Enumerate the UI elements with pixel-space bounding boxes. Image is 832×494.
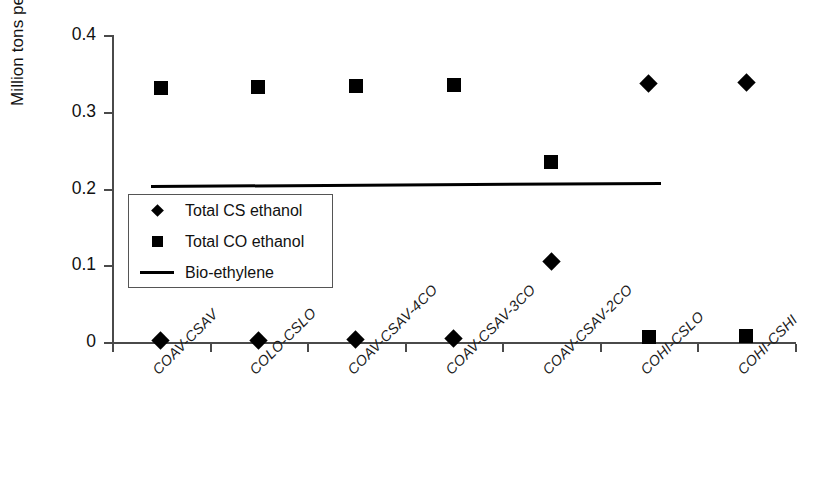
plot-area xyxy=(0,0,832,494)
legend-item-bio-ethylene[interactable]: Bio-ethylene xyxy=(129,257,332,288)
data-point-diamond xyxy=(737,73,755,91)
x-tick-mark xyxy=(600,344,602,352)
x-tick-mark xyxy=(795,344,797,352)
data-point-diamond xyxy=(639,74,657,92)
x-tick-mark xyxy=(697,344,699,352)
x-tick-mark xyxy=(210,344,212,352)
data-point-square xyxy=(251,80,265,94)
data-point-square xyxy=(349,79,363,93)
legend-item-total-co-ethanol[interactable]: Total CO ethanol xyxy=(129,226,332,257)
y-tick-mark xyxy=(104,265,113,267)
y-tick-mark xyxy=(104,189,113,191)
legend-label: Total CS ethanol xyxy=(185,202,302,220)
legend-label: Bio-ethylene xyxy=(185,264,274,282)
chart-legend: Total CS ethanol Total CO ethanol Bio-et… xyxy=(128,194,333,288)
line-marker-icon xyxy=(129,271,185,274)
data-point-square xyxy=(544,155,558,169)
data-point-diamond xyxy=(347,330,365,348)
y-tick-mark xyxy=(104,112,113,114)
data-point-diamond xyxy=(444,330,462,348)
square-marker-icon xyxy=(129,236,185,247)
data-point-diamond xyxy=(542,252,560,270)
x-tick-mark xyxy=(405,344,407,352)
diamond-marker-icon xyxy=(129,206,185,215)
chart-container: Million tons per year 00.10.20.30.4 COAV… xyxy=(0,0,832,494)
data-point-square xyxy=(642,330,656,344)
legend-item-total-cs-ethanol[interactable]: Total CS ethanol xyxy=(129,195,332,226)
legend-label: Total CO ethanol xyxy=(185,233,304,251)
x-tick-mark xyxy=(307,344,309,352)
x-tick-mark xyxy=(112,344,114,352)
data-point-square xyxy=(739,329,753,343)
data-point-square xyxy=(447,78,461,92)
bio-ethylene-trendline xyxy=(151,182,661,188)
y-tick-mark xyxy=(104,35,113,37)
data-point-square xyxy=(154,81,168,95)
x-tick-mark xyxy=(502,344,504,352)
